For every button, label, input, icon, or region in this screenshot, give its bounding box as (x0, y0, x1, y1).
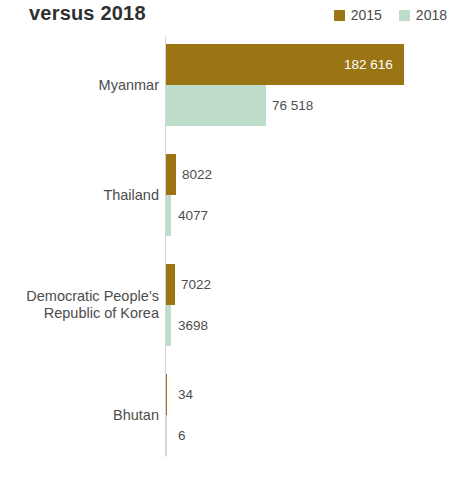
category-label: Democratic People’sRepublic of Korea (7, 288, 159, 322)
bar-2018[interactable] (166, 305, 171, 346)
bar-2015[interactable] (166, 154, 176, 195)
category-label-line: Bhutan (7, 407, 159, 424)
category-label: Myanmar (7, 77, 159, 94)
category-label-line: Thailand (7, 187, 159, 204)
legend-label-2015: 2015 (351, 8, 382, 22)
legend-label-2018: 2018 (416, 8, 447, 22)
chart-title: versus 2018 (29, 2, 146, 25)
bar-2015[interactable] (166, 374, 167, 415)
value-label: 4077 (178, 209, 208, 223)
legend-swatch-2015 (334, 10, 345, 21)
plot-area: Myanmar182 61676 518Thailand80224077Demo… (0, 36, 455, 489)
bar-chart-figure: versus 2018 2015 2018 Myanmar182 61676 5… (0, 0, 455, 489)
value-label: 8022 (182, 168, 212, 182)
legend-entry-2015: 2015 (334, 8, 382, 22)
category-label-line: Democratic People’s (7, 288, 159, 305)
bar-2015[interactable] (166, 264, 175, 305)
value-label: 76 518 (272, 99, 313, 113)
value-label: 182 616 (344, 58, 393, 72)
value-label: 3698 (178, 319, 208, 333)
value-label: 34 (178, 388, 193, 402)
legend-entry-2018: 2018 (399, 8, 447, 22)
bar-2018[interactable] (166, 85, 266, 126)
bar-2018[interactable] (166, 195, 171, 236)
category-label: Bhutan (7, 407, 159, 424)
value-label: 6 (178, 429, 186, 443)
category-label: Thailand (7, 187, 159, 204)
category-label-line: Republic of Korea (7, 305, 159, 322)
value-label: 7022 (181, 278, 211, 292)
legend-swatch-2018 (399, 10, 410, 21)
category-label-line: Myanmar (7, 77, 159, 94)
bar-2018[interactable] (166, 415, 167, 456)
chart-legend: 2015 2018 (334, 8, 447, 22)
